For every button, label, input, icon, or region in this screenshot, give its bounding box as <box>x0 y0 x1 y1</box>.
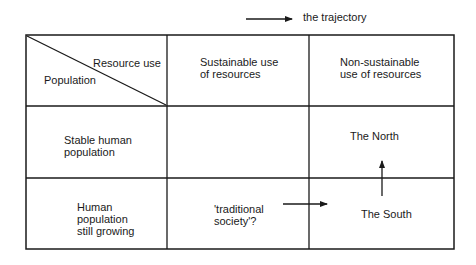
row-label-growing-population: Human population still growing <box>77 201 134 237</box>
cell-the-north: The North <box>350 130 399 142</box>
legend-label: the trajectory <box>303 11 367 23</box>
corner-column-axis-label: Resource use <box>93 57 161 69</box>
cell-the-south: The South <box>361 208 412 220</box>
column-header-sustainable: Sustainable use of resources <box>200 56 278 80</box>
row-label-stable-population: Stable human population <box>64 134 132 158</box>
column-header-non-sustainable: Non-sustainable use of resources <box>340 56 421 80</box>
corner-diagonal <box>27 36 166 105</box>
corner-row-axis-label: Population <box>44 74 96 86</box>
cell-traditional-society: 'traditional society'? <box>214 203 264 227</box>
